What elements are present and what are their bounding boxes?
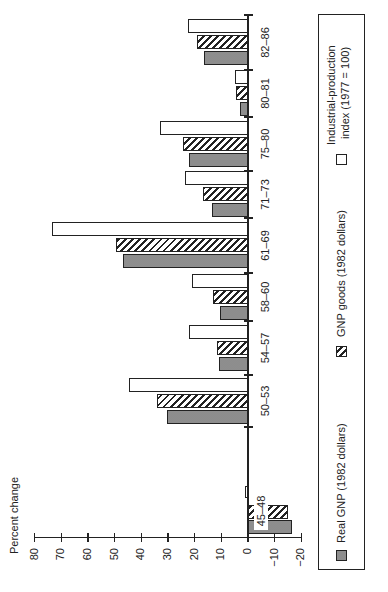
legend-label-industrial-production-line2: index (1977 = 100) bbox=[339, 47, 351, 139]
bar-chart: Percent change 80706050403020100−10−20 4… bbox=[0, 0, 388, 592]
bar-real-gnp bbox=[220, 306, 248, 320]
value-axis-tick-label: 50 bbox=[108, 548, 120, 578]
value-axis-tick-label: 80 bbox=[28, 548, 40, 578]
category-label: 54–57 bbox=[259, 323, 271, 373]
value-axis-tick-label: 10 bbox=[214, 548, 226, 578]
legend-swatch-gnp-goods bbox=[336, 346, 347, 357]
bar-gnp-goods bbox=[116, 238, 248, 252]
value-axis-tick-label: 0 bbox=[241, 548, 253, 578]
legend-swatch-real-gnp bbox=[336, 550, 347, 561]
value-axis-tick bbox=[87, 533, 88, 542]
value-axis-tick bbox=[301, 533, 302, 542]
value-axis-tick-label: 20 bbox=[188, 548, 200, 578]
value-axis-tick-label: 30 bbox=[161, 548, 173, 578]
bar-real-gnp bbox=[204, 51, 248, 65]
value-axis-tick bbox=[194, 533, 195, 542]
legend-swatch-industrial-production bbox=[336, 154, 347, 165]
category-label: 45–48 bbox=[254, 492, 268, 530]
legend-label-industrial-production-line1: Industrial-production bbox=[325, 45, 337, 145]
bar-gnp-goods bbox=[236, 86, 248, 100]
legend-label-gnp-goods: GNP goods (1982 dollars) bbox=[335, 210, 347, 337]
category-separator-tick bbox=[244, 14, 253, 15]
category-label: 58–60 bbox=[259, 272, 271, 322]
value-axis-tick bbox=[141, 533, 142, 542]
bar-industrial-production bbox=[235, 70, 248, 84]
bar-gnp-goods bbox=[183, 137, 248, 151]
category-label: 71–73 bbox=[259, 170, 271, 220]
y-axis-title: Percent change bbox=[8, 477, 20, 554]
value-axis-tick-label: −10 bbox=[268, 548, 280, 578]
category-separator-tick bbox=[244, 217, 253, 218]
category-label: 80–81 bbox=[259, 69, 271, 119]
bar-gnp-goods bbox=[197, 35, 248, 49]
value-axis-tick bbox=[274, 533, 275, 542]
bar-industrial-production bbox=[245, 486, 248, 498]
figure: Percent change 80706050403020100−10−20 4… bbox=[0, 0, 388, 592]
bar-gnp-goods bbox=[203, 187, 248, 201]
value-axis-tick-label: 40 bbox=[134, 548, 146, 578]
bar-real-gnp bbox=[212, 203, 248, 217]
bar-real-gnp bbox=[123, 254, 248, 268]
category-label: 75–80 bbox=[259, 119, 271, 169]
bar-industrial-production bbox=[185, 171, 248, 185]
value-axis-tick-label: −20 bbox=[294, 548, 306, 578]
bar-gnp-goods bbox=[213, 290, 248, 304]
value-axis-tick bbox=[61, 533, 62, 542]
value-axis-tick bbox=[221, 533, 222, 542]
bar-real-gnp bbox=[189, 153, 248, 167]
bar-real-gnp bbox=[219, 357, 248, 371]
bar-industrial-production bbox=[192, 274, 248, 288]
category-separator-tick bbox=[244, 320, 253, 321]
bar-real-gnp bbox=[240, 102, 248, 116]
bar-industrial-production bbox=[52, 222, 248, 236]
value-axis-tick bbox=[114, 533, 115, 542]
bar-gnp-goods bbox=[217, 341, 248, 355]
legend: Real GNP (1982 dollars) GNP goods (1982 … bbox=[318, 14, 365, 570]
category-label: 82–86 bbox=[259, 18, 271, 68]
bar-gnp-goods bbox=[157, 394, 248, 408]
bar-industrial-production bbox=[188, 19, 248, 33]
bar-real-gnp bbox=[167, 410, 248, 424]
value-axis-tick-label: 70 bbox=[54, 548, 66, 578]
bar-industrial-production bbox=[129, 378, 248, 392]
category-separator-tick bbox=[244, 374, 253, 375]
bar-industrial-production bbox=[160, 121, 248, 135]
value-axis-tick bbox=[34, 533, 35, 542]
value-axis-tick-label: 60 bbox=[81, 548, 93, 578]
value-axis-tick bbox=[167, 533, 168, 542]
category-separator-tick bbox=[244, 116, 253, 117]
category-label: 50–53 bbox=[259, 376, 271, 426]
category-separator-tick bbox=[244, 426, 253, 427]
category-label: 61–69 bbox=[259, 221, 271, 271]
bar-industrial-production bbox=[189, 325, 248, 339]
legend-label-real-gnp: Real GNP (1982 dollars) bbox=[335, 423, 347, 543]
